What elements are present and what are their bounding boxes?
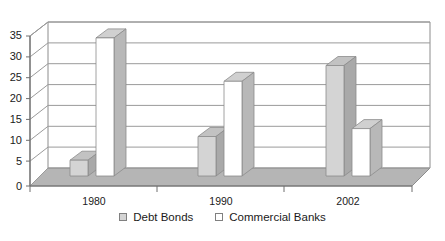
y-tick-label-35: 35 xyxy=(0,30,22,41)
y-tick-label-25: 25 xyxy=(0,72,22,83)
bar-front xyxy=(224,81,242,176)
bar-1980-commercial-banks[interactable] xyxy=(96,29,126,176)
x-tick-label-1980: 1980 xyxy=(64,196,124,207)
bar-1990-debt-bonds[interactable] xyxy=(198,128,228,177)
legend-item-debt-bonds[interactable]: Debt Bonds xyxy=(119,211,193,223)
chart-container: 35 30 25 20 15 10 5 0 1980 1990 2002 Deb… xyxy=(0,0,445,241)
bar-side xyxy=(114,29,126,176)
bar-2002-commercial-banks[interactable] xyxy=(352,120,382,176)
y-tick-label-5: 5 xyxy=(0,156,22,167)
x-tick-label-1990: 1990 xyxy=(191,196,251,207)
bar-front xyxy=(96,38,114,176)
legend-label: Debt Bonds xyxy=(133,211,193,223)
y-tick-label-0: 0 xyxy=(0,181,22,192)
legend-item-commercial-banks[interactable]: Commercial Banks xyxy=(215,211,326,223)
bar-side xyxy=(242,72,254,176)
bar-front xyxy=(352,129,370,176)
x-tick-marks xyxy=(30,186,412,192)
legend-swatch-icon xyxy=(119,213,127,221)
bar-2002-debt-bonds[interactable] xyxy=(326,57,356,177)
bar-front xyxy=(70,160,88,176)
y-tick-label-15: 15 xyxy=(0,114,22,125)
bar-1990-commercial-banks[interactable] xyxy=(224,72,254,176)
y-tick-label-30: 30 xyxy=(0,51,22,62)
bar-front xyxy=(198,137,216,177)
legend-swatch-icon xyxy=(215,213,223,221)
plot-left-wall xyxy=(30,22,48,186)
legend-label: Commercial Banks xyxy=(229,211,326,223)
x-tick-label-2002: 2002 xyxy=(318,196,378,207)
chart-legend: Debt Bonds Commercial Banks xyxy=(0,211,445,223)
y-tick-label-20: 20 xyxy=(0,93,22,104)
bar-side xyxy=(370,120,382,176)
y-tick-label-10: 10 xyxy=(0,135,22,146)
bar-front xyxy=(326,66,344,177)
